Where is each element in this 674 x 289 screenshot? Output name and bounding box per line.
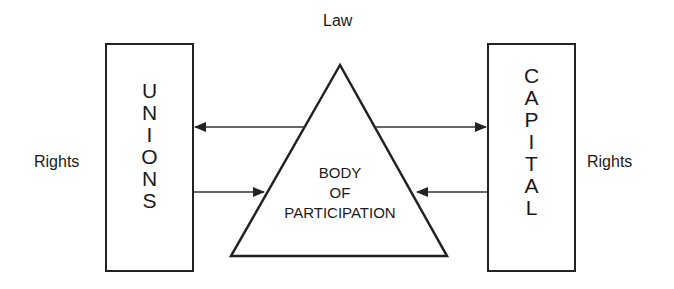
capital-box: C A P I T A L <box>487 43 576 272</box>
capital-letter: A <box>524 175 538 197</box>
capital-letter: I <box>529 131 535 153</box>
capital-letter: P <box>524 109 538 131</box>
diagram-canvas: Law Rights Rights U N I O N S C A P I T … <box>0 0 674 289</box>
capital-letter: C <box>524 65 539 87</box>
unions-letter: S <box>142 190 156 212</box>
body-of-participation-label: BODY OF PARTICIPATION <box>270 163 410 223</box>
capital-letter: A <box>524 87 538 109</box>
unions-letter: O <box>141 146 157 168</box>
center-line-3: PARTICIPATION <box>270 203 410 223</box>
unions-letter: I <box>147 124 153 146</box>
unions-letter: N <box>142 102 157 124</box>
center-line-2: OF <box>270 183 410 203</box>
capital-label: C A P I T A L <box>489 65 574 219</box>
capital-letter: L <box>526 197 538 219</box>
unions-box: U N I O N S <box>105 43 194 272</box>
participation-triangle <box>231 65 447 256</box>
law-label: Law <box>323 12 352 30</box>
center-line-1: BODY <box>270 163 410 183</box>
rights-label-right: Rights <box>587 153 632 171</box>
unions-letter: U <box>142 80 157 102</box>
unions-label: U N I O N S <box>107 80 192 212</box>
rights-label-left: Rights <box>34 153 79 171</box>
unions-letter: N <box>142 168 157 190</box>
capital-letter: T <box>525 153 538 175</box>
